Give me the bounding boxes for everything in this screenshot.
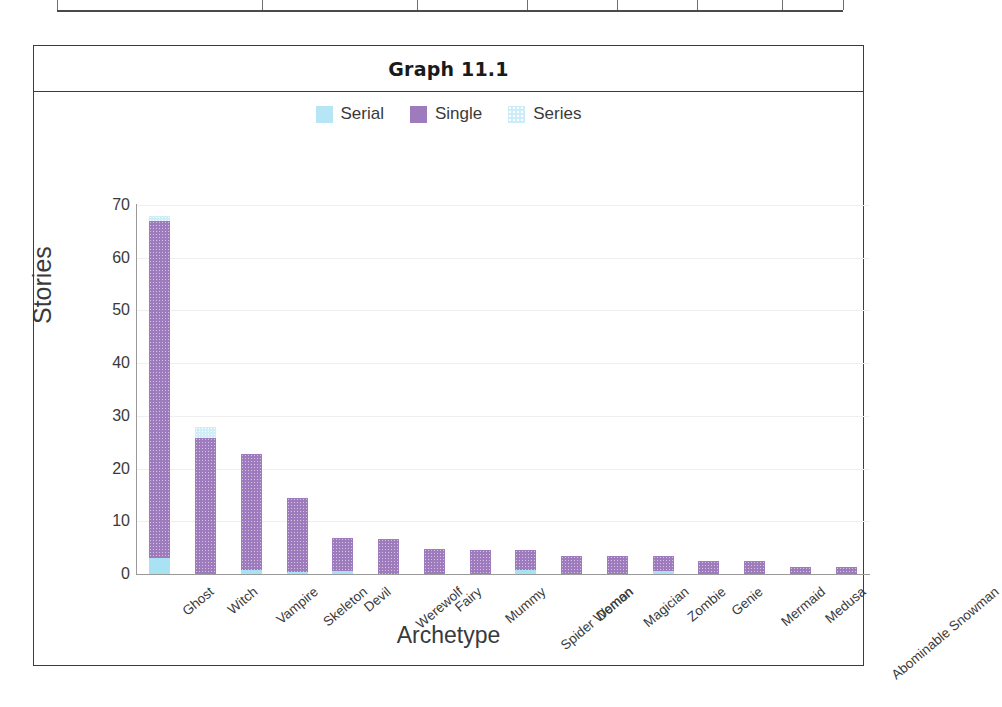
bar-segment-single xyxy=(332,538,353,571)
legend-item-label: Serial xyxy=(341,104,384,124)
x-axis-tick-label: Witch xyxy=(225,584,260,617)
table-column-divider xyxy=(843,0,844,10)
y-axis-tick-label: 20 xyxy=(90,460,130,478)
bar-column[interactable] xyxy=(607,556,628,574)
x-axis-line xyxy=(136,574,870,575)
y-axis-tick-label: 0 xyxy=(90,565,130,583)
bar-column[interactable] xyxy=(149,216,170,574)
x-axis-tick-label: Zombie xyxy=(685,584,729,624)
bar-column[interactable] xyxy=(470,550,491,574)
bar-column[interactable] xyxy=(332,538,353,574)
bar-segment-serial xyxy=(287,572,308,574)
bar-column[interactable] xyxy=(790,567,811,574)
bar-column[interactable] xyxy=(241,454,262,574)
bar-segment-single xyxy=(515,550,536,571)
bar-column[interactable] xyxy=(653,556,674,574)
bar-segment-serial xyxy=(241,570,262,574)
table-column-divider xyxy=(57,0,58,10)
x-axis-tick-label: Ghost xyxy=(179,584,216,619)
bar-segment-serial xyxy=(149,558,170,574)
legend-swatch-icon xyxy=(316,106,333,123)
table-column-divider xyxy=(617,0,618,10)
table-column-divider xyxy=(782,0,783,10)
x-axis-tick-label: Demon xyxy=(593,584,636,623)
bar-segment-single xyxy=(653,556,674,571)
x-axis-tick-label: Vampire xyxy=(274,584,321,627)
legend-item-label: Single xyxy=(435,104,482,124)
y-axis-tick-label: 50 xyxy=(90,301,130,319)
chart-legend: SerialSingleSeries xyxy=(34,104,863,124)
bar-column[interactable] xyxy=(561,556,582,574)
bar-column[interactable] xyxy=(515,550,536,574)
x-axis-tick-label: Devil xyxy=(361,584,394,615)
table-fragment xyxy=(57,0,843,12)
bar-segment-single xyxy=(149,221,170,558)
bar-column[interactable] xyxy=(424,549,445,574)
bar-column[interactable] xyxy=(287,498,308,574)
bar-series-container xyxy=(137,205,869,574)
y-axis-tick-label: 70 xyxy=(90,196,130,214)
table-column-divider xyxy=(697,0,698,10)
plot-canvas xyxy=(137,205,869,574)
legend-item-single[interactable]: Single xyxy=(410,104,482,124)
plot-area: SerialSingleSeries Stories 0102030405060… xyxy=(34,92,863,666)
bar-segment-single xyxy=(561,556,582,574)
table-column-divider xyxy=(527,0,528,10)
figure-frame: Graph 11.1 SerialSingleSeries Stories 01… xyxy=(33,45,864,666)
bar-segment-serial xyxy=(653,571,674,574)
bar-segment-single xyxy=(607,556,628,574)
y-axis-label: Stories xyxy=(28,246,57,324)
bar-segment-single xyxy=(241,454,262,569)
bar-column[interactable] xyxy=(378,539,399,574)
bar-segment-single xyxy=(470,550,491,574)
x-axis-tick-label: Abominable Snowman xyxy=(889,584,1002,682)
y-axis-ticks: 010203040506070 xyxy=(86,205,130,574)
bar-segment-single xyxy=(836,567,857,574)
bar-segment-single xyxy=(424,549,445,574)
bar-segment-series xyxy=(195,427,216,438)
legend-item-serial[interactable]: Serial xyxy=(316,104,384,124)
bar-segment-serial xyxy=(332,571,353,574)
bar-column[interactable] xyxy=(195,427,216,574)
bar-segment-single xyxy=(698,561,719,574)
y-axis-tick-label: 60 xyxy=(90,249,130,267)
bar-column[interactable] xyxy=(836,567,857,574)
bar-segment-single xyxy=(744,561,765,574)
bar-segment-single xyxy=(790,567,811,574)
bar-segment-single xyxy=(195,438,216,574)
bar-segment-single xyxy=(287,498,308,573)
legend-item-label: Series xyxy=(533,104,581,124)
figure-title: Graph 11.1 xyxy=(34,46,863,92)
x-axis-tick-label: Mummy xyxy=(502,584,548,626)
table-column-divider xyxy=(262,0,263,10)
y-axis-tick-label: 10 xyxy=(90,512,130,530)
y-axis-tick-label: 30 xyxy=(90,407,130,425)
bar-segment-serial xyxy=(515,570,536,574)
x-axis-label: Archetype xyxy=(34,622,863,649)
bar-column[interactable] xyxy=(744,561,765,574)
bar-segment-single xyxy=(378,539,399,574)
table-column-divider xyxy=(417,0,418,10)
x-axis-tick-label: Medusa xyxy=(823,584,869,626)
x-axis-tick-label: Genie xyxy=(728,584,765,619)
bar-column[interactable] xyxy=(698,561,719,574)
legend-swatch-icon xyxy=(508,106,525,123)
legend-swatch-icon xyxy=(410,106,427,123)
legend-item-series[interactable]: Series xyxy=(508,104,581,124)
y-axis-tick-label: 40 xyxy=(90,354,130,372)
